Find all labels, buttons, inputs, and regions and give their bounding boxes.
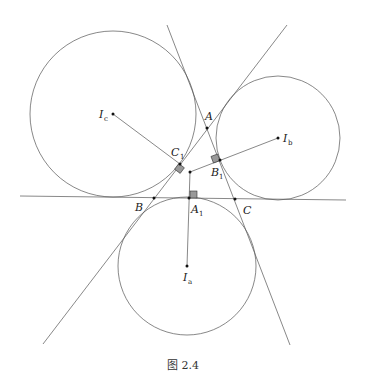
point-c1	[179, 163, 182, 166]
right-angle-marker-a1	[190, 191, 197, 198]
point-b	[153, 197, 156, 200]
segment-ic-c1	[113, 114, 180, 164]
line-bc	[20, 196, 346, 200]
label-b1-sub: 1	[219, 173, 223, 181]
segment-ia-a1	[187, 172, 190, 266]
point-a1	[188, 197, 191, 200]
label-c1: C	[171, 146, 180, 159]
point-ib	[277, 137, 280, 140]
point-b1	[219, 159, 222, 162]
point-ia	[186, 265, 189, 268]
segment-ib-b1	[190, 138, 278, 172]
label-a1-sub: 1	[199, 210, 203, 218]
point-c	[234, 198, 237, 201]
line-ac	[167, 25, 290, 345]
geometry-diagram: A B C A 1 B 1 C 1 I a I b I c	[0, 0, 366, 389]
label-c: C	[243, 204, 252, 217]
label-a1: A	[190, 203, 199, 216]
label-ib-sub: b	[288, 139, 293, 147]
line-ab	[43, 25, 287, 344]
label-ic-sub: c	[104, 115, 108, 123]
point-a	[206, 127, 209, 130]
label-b: B	[134, 201, 143, 214]
figure-caption: 图 2.4	[0, 356, 366, 372]
label-b1: B	[210, 166, 219, 179]
point-p	[189, 171, 192, 174]
label-c1-sub: 1	[180, 153, 184, 161]
label-a: A	[204, 110, 213, 123]
label-ia-sub: a	[188, 278, 192, 286]
point-ic	[112, 113, 115, 116]
